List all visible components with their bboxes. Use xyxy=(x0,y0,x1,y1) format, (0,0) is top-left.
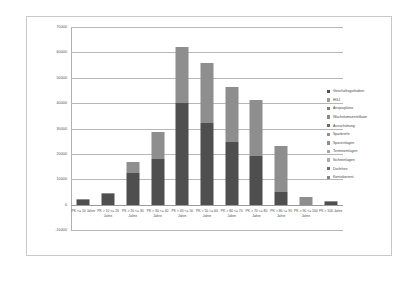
legend-item[interactable]: Darlehen xyxy=(327,164,393,173)
y-axis-tick-label: 20000 xyxy=(57,152,68,156)
gridline xyxy=(71,230,343,231)
bar-segment[interactable] xyxy=(126,173,139,205)
y-axis-tick-label: 30000 xyxy=(57,127,68,131)
bar-category-slot[interactable]: PK > 80 <= 90 Jahre xyxy=(269,27,294,230)
legend-swatch-icon xyxy=(327,107,330,110)
bar-category-slot[interactable]: PK > 90 <= 100 Jahre xyxy=(294,27,319,230)
legend-item-label: Wachstumszertifikate xyxy=(333,115,367,119)
bar-segment[interactable] xyxy=(151,132,164,160)
y-axis-tick-label: 60000 xyxy=(57,50,68,54)
y-axis-tick-label: 50000 xyxy=(57,76,68,80)
bar-segment[interactable] xyxy=(77,200,90,204)
legend-item[interactable]: Ansparpläne xyxy=(327,104,393,113)
legend-swatch-icon xyxy=(327,124,330,127)
legend-item-label: Geschäftsguthaben xyxy=(333,89,364,93)
legend-item[interactable]: Sichteinlagen xyxy=(327,156,393,165)
stacked-bar[interactable] xyxy=(250,27,263,230)
bar-segment[interactable] xyxy=(250,100,263,156)
bar-segment[interactable] xyxy=(324,202,337,204)
bar-category-slot[interactable]: PK > 60 <= 70 Jahre xyxy=(219,27,244,230)
bar-category-slot[interactable]: PK > 40 <= 50 Jahre xyxy=(170,27,195,230)
bar-segment[interactable] xyxy=(151,159,164,204)
bar-segment[interactable] xyxy=(275,146,288,192)
stacked-bar[interactable] xyxy=(299,27,312,230)
legend-item-label: HGJ xyxy=(333,98,340,102)
legend-swatch-icon xyxy=(327,176,330,179)
legend-item[interactable]: Termineinlagen xyxy=(327,147,393,156)
bar-category-slot[interactable]: PK <= 10 Jahre xyxy=(71,27,96,230)
bar-segment[interactable] xyxy=(225,142,238,204)
legend-item-label: Sichteinlagen xyxy=(333,158,355,162)
legend-swatch-icon xyxy=(327,167,330,170)
stacked-bar[interactable] xyxy=(225,27,238,230)
legend-swatch-icon xyxy=(327,98,330,101)
bar-segment[interactable] xyxy=(176,103,189,205)
y-axis-tick-label: -10000 xyxy=(55,228,67,232)
bar-category-slot[interactable]: PK > 50 <= 60 Jahre xyxy=(195,27,220,230)
bar-segment[interactable] xyxy=(225,87,238,142)
stacked-bar[interactable] xyxy=(126,27,139,230)
bar-segment[interactable] xyxy=(176,47,189,103)
legend-item[interactable]: Sparbriefe xyxy=(327,130,393,139)
legend-item[interactable]: Kontokorrent xyxy=(327,173,393,182)
bar-category-slot[interactable]: PK > 70 <= 80 Jahre xyxy=(244,27,269,230)
legend-item-label: Ausschüttung xyxy=(333,124,355,128)
legend-swatch-icon xyxy=(327,115,330,118)
y-axis-tick-label: 70000 xyxy=(57,25,68,29)
stacked-bar[interactable] xyxy=(77,27,90,230)
bar-category-slot[interactable]: PK > 30 <= 40 Jahre xyxy=(145,27,170,230)
bar-segment[interactable] xyxy=(126,162,139,173)
legend-swatch-icon xyxy=(327,150,330,153)
bar-segment[interactable] xyxy=(102,193,115,195)
y-axis-tick-label: 10000 xyxy=(57,177,68,181)
legend-item-label: Ansparpläne xyxy=(333,106,353,110)
legend-item-label: Darlehen xyxy=(333,167,348,171)
legend-item-label: Termineinlagen xyxy=(333,149,357,153)
bar-segment[interactable] xyxy=(299,197,312,205)
stacked-bar[interactable] xyxy=(275,27,288,230)
stacked-bar[interactable] xyxy=(151,27,164,230)
legend-item-label: Sparbriefe xyxy=(333,132,350,136)
bar-segment[interactable] xyxy=(200,123,213,205)
legend-item[interactable]: Ausschüttung xyxy=(327,121,393,130)
plot-area: -100000100002000030000400005000060000700… xyxy=(71,27,343,230)
stacked-bar[interactable] xyxy=(102,27,115,230)
legend-item[interactable]: Spareinlagen xyxy=(327,139,393,148)
legend-swatch-icon xyxy=(327,158,330,161)
bar-segment[interactable] xyxy=(275,192,288,204)
bar-segment[interactable] xyxy=(77,199,90,200)
bar-segment[interactable] xyxy=(102,194,115,204)
legend-swatch-icon xyxy=(327,141,330,144)
legend-item[interactable]: HGJ xyxy=(327,96,393,105)
stacked-bar[interactable] xyxy=(200,27,213,230)
bar-category-slot[interactable]: PK > 20 <= 30 Jahre xyxy=(120,27,145,230)
legend-swatch-icon xyxy=(327,90,330,93)
legend-item[interactable]: Wachstumszertifikate xyxy=(327,113,393,122)
legend-item-label: Spareinlagen xyxy=(333,141,354,145)
stacked-bar[interactable] xyxy=(176,27,189,230)
y-axis-tick-label: 0 xyxy=(65,203,67,207)
chart-legend: GeschäftsguthabenHGJAnsparpläneWachstums… xyxy=(327,87,393,182)
bar-segment[interactable] xyxy=(324,201,337,202)
x-axis-tick-label: PK > 100 Jahre xyxy=(316,209,346,214)
chart-frame: -100000100002000030000400005000060000700… xyxy=(26,16,392,256)
bar-category-slot[interactable]: PK > 10 <= 20 Jahre xyxy=(96,27,121,230)
legend-swatch-icon xyxy=(327,133,330,136)
legend-item[interactable]: Geschäftsguthaben xyxy=(327,87,393,96)
bar-segment[interactable] xyxy=(200,63,213,122)
legend-item-label: Kontokorrent xyxy=(333,175,354,179)
y-axis-tick-label: 40000 xyxy=(57,101,68,105)
bar-segment[interactable] xyxy=(250,156,263,205)
